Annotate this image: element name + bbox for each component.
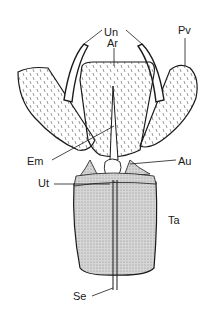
- tarsomere: [74, 173, 157, 275]
- label-unguitractor: Ut: [38, 178, 49, 189]
- label-empodium: Em: [27, 156, 44, 167]
- label-auxilia: Au: [178, 156, 191, 167]
- label-tarsomere: Ta: [168, 215, 180, 226]
- label-seta: Se: [73, 291, 86, 302]
- label-pulvillus: Pv: [178, 25, 191, 36]
- label-arolium: Ar: [107, 38, 118, 49]
